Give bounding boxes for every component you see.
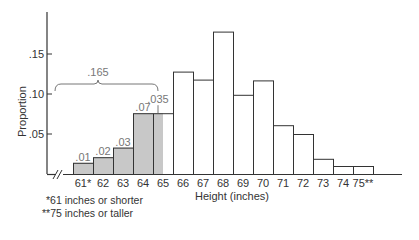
bar-66 — [174, 72, 194, 174]
x-tick-label: 68 — [217, 177, 229, 189]
bars-group — [73, 32, 374, 174]
x-tick-label: 69 — [237, 177, 249, 189]
x-tick-label: 73 — [317, 177, 329, 189]
bar-63 — [113, 148, 134, 175]
brace-icon — [55, 80, 158, 91]
x-tick-label: 65 — [157, 177, 169, 189]
brace-label: .165 — [87, 66, 108, 78]
bar-61 — [73, 163, 94, 175]
x-tick-label: 66 — [177, 177, 189, 189]
bar-value-label: .035 — [147, 93, 168, 105]
bar-value-label: .01 — [75, 151, 90, 163]
bar-value-label: .02 — [95, 145, 110, 157]
x-tick-label: 63 — [117, 177, 129, 189]
bar-65 — [153, 113, 174, 174]
bar-74 — [334, 167, 354, 175]
bar-64 — [133, 113, 154, 174]
bar-68 — [214, 32, 234, 174]
y-tick-label: .10 — [29, 88, 44, 100]
bar-69 — [234, 95, 254, 174]
y-axis-title: Proportion — [16, 86, 28, 137]
bar-75 — [354, 167, 374, 175]
bar-70 — [254, 81, 274, 175]
footnote-61: *61 inches or shorter — [46, 194, 143, 207]
x-tick-label: 62 — [97, 177, 109, 189]
y-tick-label: .15 — [29, 48, 44, 60]
x-tick-label: 61* — [75, 177, 92, 189]
y-tick-label: .05 — [29, 128, 44, 140]
bar-value-label: .03 — [115, 136, 130, 148]
x-tick-label: 74 — [337, 177, 349, 189]
x-tick-label: 70 — [257, 177, 269, 189]
bar-67 — [194, 80, 214, 174]
bar-71 — [274, 126, 294, 175]
x-tick-label: 72 — [297, 177, 309, 189]
x-tick-label: 64 — [137, 177, 149, 189]
bar-62 — [93, 157, 114, 174]
bar-72 — [294, 135, 314, 175]
bar-73 — [314, 159, 334, 174]
x-tick-label: 75** — [353, 177, 375, 189]
footnote-75: **75 inches or taller — [42, 207, 133, 220]
x-tick-label: 67 — [197, 177, 209, 189]
x-tick-label: 71 — [277, 177, 289, 189]
x-axis-title: Height (inches) — [195, 190, 269, 202]
